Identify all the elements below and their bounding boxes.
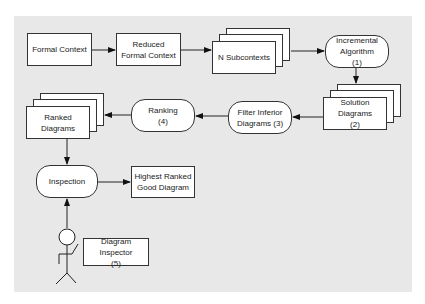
stick-figure-icon <box>56 229 78 284</box>
connectors <box>0 0 425 304</box>
